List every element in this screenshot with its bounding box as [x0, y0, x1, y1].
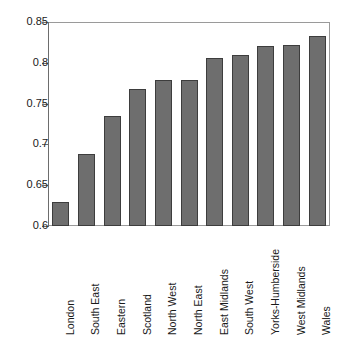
x-axis-tick-label: South East: [90, 284, 101, 335]
y-axis-tick-label: 0.6: [8, 220, 48, 231]
bar: [155, 80, 172, 226]
bar: [181, 80, 198, 226]
bar: [78, 154, 95, 226]
y-axis-tick-label: 0.65: [8, 179, 48, 190]
y-axis-ticks: 0.60.650.70.750.80.85: [0, 0, 48, 341]
bars-container: [48, 22, 330, 226]
bar-chart: 0.60.650.70.750.80.85 LondonSouth EastEa…: [0, 0, 345, 341]
x-axis-tick-label: London: [65, 300, 76, 335]
bar: [309, 36, 326, 226]
bar: [129, 89, 146, 226]
x-axis-labels: LondonSouth EastEasternScotlandNorth Wes…: [48, 229, 330, 341]
y-axis-tick-label: 0.8: [8, 57, 48, 68]
y-axis-tick-label: 0.85: [8, 16, 48, 27]
bar: [283, 45, 300, 226]
x-axis-tick-label: East Midlands: [219, 269, 230, 335]
x-axis-tick-label: Wales: [321, 306, 332, 335]
x-axis-tick-label: Eastern: [116, 299, 127, 335]
x-axis-tick-label: Scotland: [142, 294, 153, 335]
x-axis-tick-label: North East: [193, 285, 204, 335]
y-axis-tick-label: 0.7: [8, 138, 48, 149]
bar: [206, 58, 223, 226]
bar: [52, 202, 69, 226]
x-axis-tick-label: North West: [167, 283, 178, 335]
bar: [257, 46, 274, 226]
x-axis-tick-label: West Midlands: [296, 266, 307, 335]
y-axis-tick-label: 0.75: [8, 98, 48, 109]
x-axis-tick-label: South West: [244, 281, 255, 335]
bar: [104, 116, 121, 226]
x-axis-tick-label: Yorks-Humberside: [270, 249, 281, 335]
bar: [232, 55, 249, 226]
